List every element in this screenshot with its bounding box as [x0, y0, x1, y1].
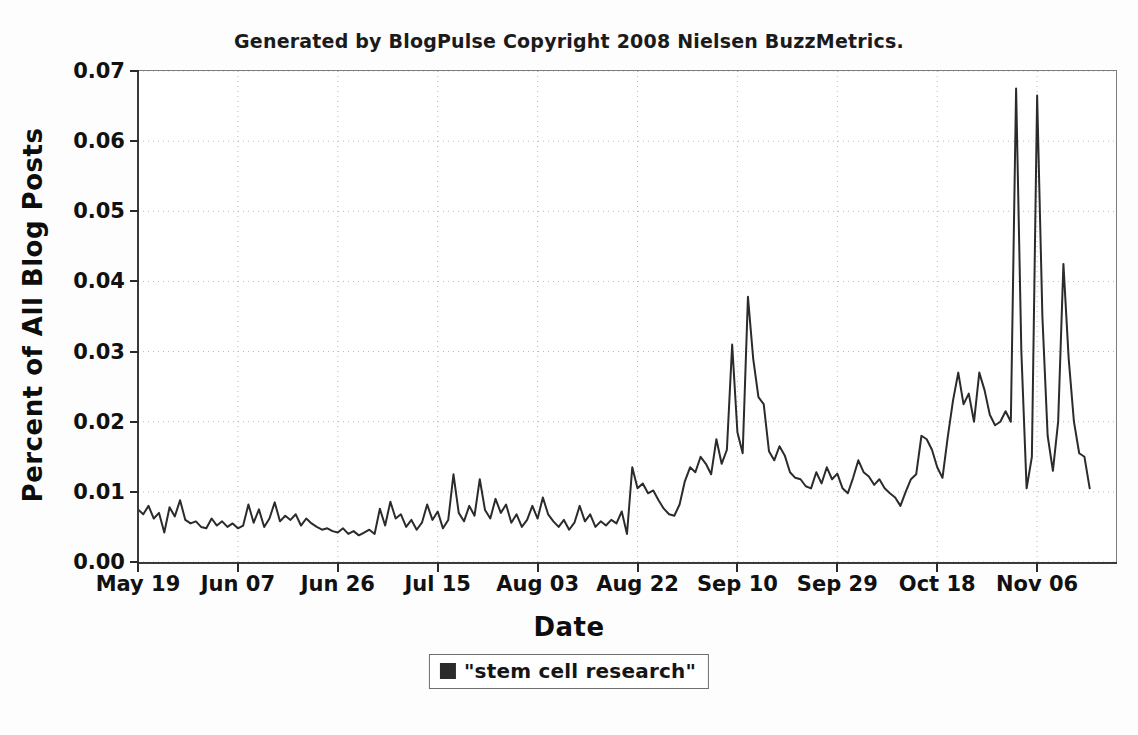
x-tick-label: Aug 03 — [496, 572, 579, 596]
x-tick-mark — [537, 563, 539, 572]
x-axis-line — [137, 562, 1117, 564]
x-tick-mark — [736, 563, 738, 572]
x-tick-label: Aug 22 — [596, 572, 679, 596]
x-tick-label: Jun 07 — [201, 572, 275, 596]
chart-title: Generated by BlogPulse Copyright 2008 Ni… — [0, 30, 1138, 52]
x-tick-mark — [1036, 563, 1038, 572]
x-axis-label: Date — [0, 612, 1138, 642]
x-tick-mark — [237, 563, 239, 572]
chart-legend: "stem cell research" — [429, 654, 709, 689]
x-tick-label: Nov 06 — [996, 572, 1078, 596]
y-axis-label: Percent of All Blog Posts — [18, 90, 48, 540]
x-tick-mark — [437, 563, 439, 572]
x-tick-mark — [137, 563, 139, 572]
legend-swatch-icon — [440, 663, 456, 679]
y-tick-label: 0.06 — [45, 129, 125, 153]
x-tick-mark — [637, 563, 639, 572]
y-tick-label: 0.04 — [45, 269, 125, 293]
y-tick-label: 0.01 — [45, 480, 125, 504]
legend-label: "stem cell research" — [464, 659, 696, 683]
y-axis-line — [137, 70, 139, 564]
x-tick-label: Jul 15 — [404, 572, 471, 596]
plot-area — [137, 70, 1117, 563]
y-tick-label: 0.05 — [45, 199, 125, 223]
x-tick-label: Jun 26 — [301, 572, 375, 596]
x-tick-mark — [936, 563, 938, 572]
x-tick-mark — [836, 563, 838, 572]
x-tick-label: Sep 10 — [697, 572, 778, 596]
y-tick-label: 0.03 — [45, 340, 125, 364]
y-tick-label: 0.07 — [45, 59, 125, 83]
series-line-stem-cell-research — [138, 71, 1116, 562]
y-tick-label: 0.00 — [45, 550, 125, 574]
x-tick-label: Sep 29 — [797, 572, 878, 596]
x-tick-label: Oct 18 — [899, 572, 976, 596]
chart-figure: Generated by BlogPulse Copyright 2008 Ni… — [0, 0, 1138, 735]
x-tick-mark — [337, 563, 339, 572]
x-tick-label: May 19 — [96, 572, 181, 596]
y-tick-label: 0.02 — [45, 410, 125, 434]
